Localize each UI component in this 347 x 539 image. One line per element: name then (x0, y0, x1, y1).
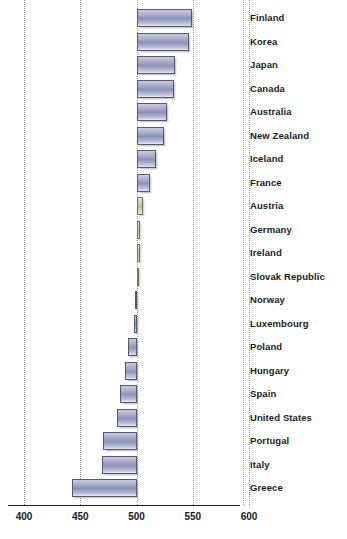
bar-japan[interactable] (137, 56, 175, 74)
category-label-finland: Finland (250, 12, 284, 23)
category-label-france: France (250, 177, 282, 188)
bar-row (0, 313, 240, 337)
bar-slovak-republic[interactable] (137, 268, 139, 286)
category-label-portugal: Portugal (250, 435, 289, 446)
bar-new-zealand[interactable] (137, 127, 164, 145)
bar-row (0, 31, 240, 55)
category-label-norway: Norway (250, 294, 285, 305)
x-tick-500: 500 (128, 511, 145, 522)
bar-row (0, 148, 240, 172)
category-label-slovak-republic: Slovak Republic (250, 271, 325, 282)
bar-ireland[interactable] (137, 244, 140, 262)
x-tick-450: 450 (72, 511, 89, 522)
category-label-ireland: Ireland (250, 247, 282, 258)
plot-area (0, 0, 240, 505)
x-tick-550: 550 (184, 511, 201, 522)
bar-france[interactable] (137, 174, 151, 192)
bar-row (0, 195, 240, 219)
x-tick-400: 400 (16, 511, 33, 522)
bar-row (0, 454, 240, 478)
category-label-hungary: Hungary (250, 365, 289, 376)
bar-united-states[interactable] (117, 409, 136, 427)
bar-row (0, 242, 240, 266)
bar-row (0, 477, 240, 501)
bar-korea[interactable] (137, 33, 190, 51)
bar-australia[interactable] (137, 103, 167, 121)
bar-row (0, 101, 240, 125)
category-label-germany: Germany (250, 224, 292, 235)
bar-austria[interactable] (137, 197, 144, 215)
bar-chart: FinlandKoreaJapanCanadaAustraliaNew Zeal… (0, 0, 347, 539)
bar-poland[interactable] (128, 338, 137, 356)
category-label-austria: Austria (250, 200, 283, 211)
category-label-italy: Italy (250, 459, 270, 470)
category-label-new-zealand: New Zealand (250, 130, 309, 141)
bar-canada[interactable] (137, 80, 174, 98)
bar-norway[interactable] (135, 291, 137, 309)
x-axis-line (8, 505, 240, 506)
bar-row (0, 336, 240, 360)
bar-row (0, 289, 240, 313)
category-label-luxembourg: Luxembourg (250, 318, 309, 329)
bar-row (0, 78, 240, 102)
category-label-iceland: Iceland (250, 153, 283, 164)
bar-row (0, 125, 240, 149)
category-label-spain: Spain (250, 388, 276, 399)
category-label-korea: Korea (250, 36, 277, 47)
bar-spain[interactable] (120, 385, 137, 403)
bar-finland[interactable] (137, 9, 192, 27)
bar-hungary[interactable] (125, 362, 136, 380)
x-tick-600: 600 (241, 511, 258, 522)
bar-luxembourg[interactable] (134, 315, 136, 333)
bar-row (0, 360, 240, 384)
bar-row (0, 7, 240, 31)
category-label-poland: Poland (250, 341, 282, 352)
category-label-australia: Australia (250, 106, 292, 117)
category-labels: FinlandKoreaJapanCanadaAustraliaNew Zeal… (250, 0, 347, 505)
bar-row (0, 54, 240, 78)
bar-row (0, 172, 240, 196)
bar-iceland[interactable] (137, 150, 156, 168)
bar-row (0, 219, 240, 243)
bar-row (0, 383, 240, 407)
bar-row (0, 430, 240, 454)
category-label-greece: Greece (250, 482, 283, 493)
bar-greece[interactable] (72, 479, 136, 497)
bar-portugal[interactable] (103, 432, 137, 450)
bar-germany[interactable] (137, 221, 140, 239)
bar-row (0, 266, 240, 290)
bar-row (0, 407, 240, 431)
bar-italy[interactable] (102, 456, 137, 474)
category-label-united-states: United States (250, 412, 312, 423)
category-label-japan: Japan (250, 59, 278, 70)
category-label-canada: Canada (250, 83, 285, 94)
label-separator-line (243, 0, 244, 505)
